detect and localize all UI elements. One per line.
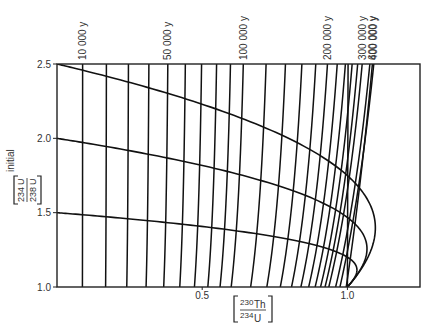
x-axis-ticks: 0.51.0 bbox=[195, 287, 355, 301]
y-label-numerator-mass: 234 bbox=[16, 187, 26, 202]
x-tick-label: 0.5 bbox=[195, 290, 209, 301]
age-label: 10 000 y bbox=[77, 22, 88, 60]
y-axis-label: 234 U 238 U initial bbox=[5, 149, 41, 204]
age-label: 200 000 y bbox=[322, 16, 333, 60]
x-label-numerator-mass: 230 bbox=[240, 298, 254, 307]
isochron-line bbox=[146, 64, 149, 287]
x-label-numerator-element: Th bbox=[254, 299, 266, 310]
isochron-line bbox=[220, 64, 230, 287]
age-label: 100 000 y bbox=[238, 16, 249, 60]
isochron-line bbox=[194, 64, 201, 287]
y-label-denominator-mass: 238 bbox=[28, 187, 38, 202]
y-label-numerator-element: U bbox=[16, 179, 26, 186]
age-label: 600 000 y bbox=[367, 16, 378, 60]
y-tick-label: 1.0 bbox=[37, 282, 51, 293]
isochron-line bbox=[208, 64, 217, 287]
y-label-denominator-element: U bbox=[28, 179, 38, 186]
age-labels: 10 000 y50 000 y100 000 y200 000 y300 00… bbox=[77, 16, 379, 60]
y-tick-label: 1.5 bbox=[37, 207, 51, 218]
isochron-line bbox=[106, 64, 107, 287]
x-label-denominator-mass: 234 bbox=[240, 311, 254, 320]
x-label-denominator-element: U bbox=[254, 313, 261, 324]
isochron-line bbox=[127, 64, 129, 287]
x-tick-label: 1.0 bbox=[340, 290, 354, 301]
isochron-line bbox=[251, 64, 266, 287]
plot-frame bbox=[57, 64, 420, 287]
y-tick-label: 2.5 bbox=[37, 59, 51, 70]
age-label: 50 000 y bbox=[162, 22, 173, 60]
y-tick-label: 2.0 bbox=[37, 133, 51, 144]
x-axis-label: 230 Th 234 U bbox=[234, 296, 272, 324]
uranium-series-chart: 1.01.52.02.5 0.51.0 10 000 y50 000 y100 … bbox=[0, 0, 434, 328]
isochron-line bbox=[267, 64, 286, 287]
isochron-lines bbox=[82, 64, 373, 287]
y-label-initial: initial bbox=[5, 149, 16, 172]
isochron-line bbox=[164, 64, 168, 287]
